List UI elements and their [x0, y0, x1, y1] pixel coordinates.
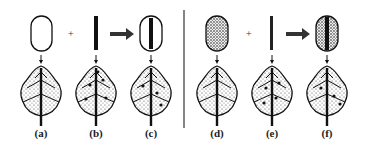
panel-f [307, 16, 347, 126]
diagram-canvas: + + [0, 0, 367, 153]
panel-c [131, 16, 171, 126]
capsule-icon [31, 16, 52, 51]
label-f: (f) [315, 127, 339, 139]
rod-icon [94, 16, 98, 50]
label-a: (a) [29, 127, 53, 139]
leaf-icon [21, 66, 61, 126]
arrow-right-icon [110, 28, 134, 40]
svg-text:+: + [246, 28, 252, 39]
label-b: (b) [84, 127, 108, 139]
panel-d [197, 16, 237, 126]
label-d: (d) [205, 127, 229, 139]
plus-sign: + [68, 28, 74, 39]
figure: + + [0, 0, 367, 153]
label-c: (c) [139, 127, 163, 139]
label-e: (e) [260, 127, 284, 139]
panel-a [21, 16, 61, 126]
